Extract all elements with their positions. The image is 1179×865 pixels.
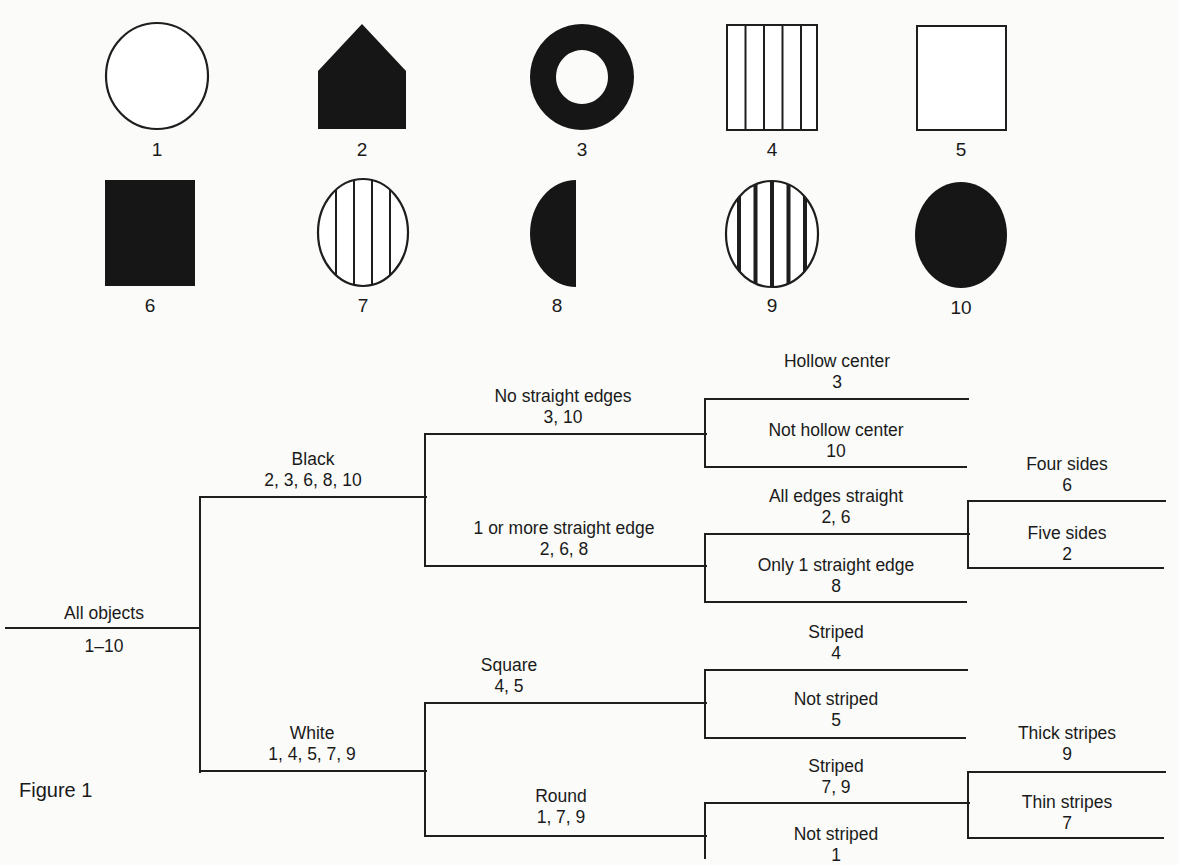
node-round-not-striped-members: 1 [794,845,879,865]
node-black: Black 2, 3, 6, 8, 10 [264,449,361,491]
shape-2-black-pentagon-icon [318,24,406,129]
node-no-straight-edges-label: No straight edges [494,386,631,407]
only-one-straight-line [704,601,967,603]
shape-4-label: 4 [742,139,802,161]
node-black-label: Black [264,449,361,470]
shape-10-black-circle-icon [915,182,1007,288]
all-straight-connector [967,500,969,569]
one-or-more-connector [704,533,706,603]
node-not-hollow-center: Not hollow center 10 [768,420,903,462]
not-hollow-center-line [704,466,967,468]
node-only-one-straight-edge-label: Only 1 straight edge [758,555,915,576]
node-one-or-more-straight-edge-label: 1 or more straight edge [474,518,655,539]
node-round-striped-members: 7, 9 [808,777,863,798]
node-round: Round 1, 7, 9 [535,786,587,828]
node-thick-stripes-members: 9 [1018,744,1116,765]
figure-caption: Figure 1 [19,779,92,802]
node-four-sides-members: 6 [1026,475,1108,496]
node-round-not-striped-label: Not striped [794,824,879,845]
all-edges-straight-line [704,533,970,535]
shape-6-label: 6 [120,295,180,317]
node-square-striped-label: Striped [808,622,863,643]
node-root-members: 1–10 [85,636,124,657]
node-all-edges-straight: All edges straight 2, 6 [769,486,903,528]
shape-8-black-half-circle-icon [530,180,576,287]
node-four-sides: Four sides 6 [1026,454,1108,496]
node-square-not-striped-members: 5 [794,710,879,731]
shape-3-black-ring-icon [530,24,634,130]
node-only-one-straight-edge-members: 8 [758,576,915,597]
node-not-hollow-center-members: 10 [768,441,903,462]
square-connector [704,669,706,738]
node-square-striped-members: 4 [808,643,863,664]
node-one-or-more-straight-edge-members: 2, 6, 8 [474,539,655,560]
no-straight-connector [704,398,706,468]
node-square: Square 4, 5 [481,655,537,697]
node-not-hollow-center-label: Not hollow center [768,420,903,441]
node-round-striped: Striped 7, 9 [808,756,863,798]
shape-3-label: 3 [552,139,612,161]
shape-4-striped-square-icon [726,24,818,131]
node-only-one-straight-edge: Only 1 straight edge 8 [758,555,915,597]
node-all-edges-straight-label: All edges straight [769,486,903,507]
node-root-label: All objects [64,603,144,624]
node-five-sides-label: Five sides [1028,523,1107,544]
node-one-or-more-straight-edge: 1 or more straight edge 2, 6, 8 [474,518,655,560]
node-no-straight-edges-members: 3, 10 [494,407,631,428]
node-thick-stripes: Thick stripes 9 [1018,723,1116,765]
hollow-center-line [704,398,969,400]
node-round-label: Round [535,786,587,807]
node-black-members: 2, 3, 6, 8, 10 [264,470,361,491]
node-square-not-striped-label: Not striped [794,689,879,710]
root-branch-line [5,627,201,629]
node-root: All objects [64,603,144,624]
node-square-striped: Striped 4 [808,622,863,664]
shape-2-label: 2 [332,139,392,161]
node-white-label: White [268,723,356,744]
round-striped-line [704,802,970,804]
node-five-sides-members: 2 [1028,544,1107,565]
node-thick-stripes-label: Thick stripes [1018,723,1116,744]
node-no-straight-edges: No straight edges 3, 10 [494,386,631,428]
thick-stripes-line [967,771,1166,773]
node-hollow-center: Hollow center 3 [784,351,890,393]
shape-8-label: 8 [527,295,587,317]
node-root-members-text: 1–10 [85,636,124,657]
shape-7-label: 7 [333,295,393,317]
shape-9-label: 9 [742,295,802,317]
one-or-more-straight-branch-line [424,565,707,567]
five-sides-line [967,567,1164,569]
node-round-not-striped: Not striped 1 [794,824,879,865]
four-sides-line [967,500,1166,502]
shape-5-label: 5 [931,139,991,161]
shape-1-label: 1 [127,139,187,161]
shape-10-label: 10 [931,297,991,319]
shape-6-black-square-icon [105,180,195,286]
node-hollow-center-members: 3 [784,372,890,393]
shape-7-thin-striped-circle-icon [317,178,409,287]
node-hollow-center-label: Hollow center [784,351,890,372]
no-straight-edges-branch-line [424,433,707,435]
white-connector [424,702,426,837]
shape-1-white-circle-icon [105,22,209,130]
shape-5-white-square-icon [916,25,1007,131]
node-square-not-striped: Not striped 5 [794,689,879,731]
node-five-sides: Five sides 2 [1028,523,1107,565]
round-striped-connector [967,771,969,838]
thin-stripes-line [967,837,1164,839]
round-branch-line [424,835,707,837]
node-square-members: 4, 5 [481,676,537,697]
square-not-striped-line [704,737,966,739]
node-all-edges-straight-members: 2, 6 [769,507,903,528]
node-thin-stripes: Thin stripes 7 [1022,792,1112,834]
node-white: White 1, 4, 5, 7, 9 [268,723,356,765]
level1-connector [199,496,201,773]
node-four-sides-label: Four sides [1026,454,1108,475]
node-white-members: 1, 4, 5, 7, 9 [268,744,356,765]
round-connector [704,802,706,859]
black-branch-line [199,496,427,498]
node-thin-stripes-members: 7 [1022,813,1112,834]
square-branch-line [424,702,707,704]
black-connector [424,433,426,567]
square-striped-line [704,669,968,671]
